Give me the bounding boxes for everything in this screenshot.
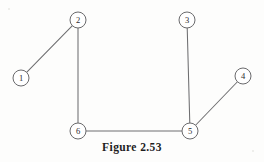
graph-diagram: 123456 <box>0 0 264 162</box>
edge-layer <box>27 26 238 131</box>
graph-edge-5-3 <box>187 28 190 123</box>
graph-node-2: 2 <box>70 12 86 28</box>
node-layer: 123456 <box>13 12 251 139</box>
node-label-2: 2 <box>76 15 80 25</box>
figure-caption: Figure 2.53 <box>0 141 264 153</box>
node-label-3: 3 <box>185 15 189 25</box>
figure-container: 123456 Figure 2.53 <box>0 0 264 162</box>
graph-node-4: 4 <box>235 68 251 84</box>
node-label-5: 5 <box>188 126 192 136</box>
graph-node-6: 6 <box>70 123 86 139</box>
graph-node-5: 5 <box>182 123 198 139</box>
node-label-1: 1 <box>19 73 23 83</box>
graph-edge-5-4 <box>196 82 238 125</box>
node-label-6: 6 <box>76 126 80 136</box>
graph-node-1: 1 <box>13 70 29 86</box>
graph-node-3: 3 <box>179 12 195 28</box>
graph-edge-1-2 <box>27 26 73 73</box>
